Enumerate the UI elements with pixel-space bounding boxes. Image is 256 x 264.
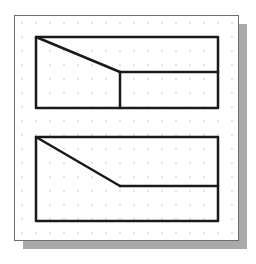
grid-dot (105, 190, 106, 191)
grid-dot (105, 120, 106, 121)
grid-dot (49, 218, 50, 219)
grid-dot (203, 218, 204, 219)
grid-dot (119, 22, 120, 23)
grid-dot (161, 176, 162, 177)
grid-dot (105, 134, 106, 135)
grid-dot (119, 176, 120, 177)
grid-dot (105, 148, 106, 149)
grid-dot (147, 190, 148, 191)
grid-dot (175, 176, 176, 177)
grid-dot (175, 218, 176, 219)
grid-dot (77, 92, 78, 93)
grid-dot (175, 232, 176, 233)
grid-dot (203, 232, 204, 233)
grid-dot (35, 232, 36, 233)
grid-dot (175, 190, 176, 191)
grid-dot (49, 22, 50, 23)
grid-dot (161, 50, 162, 51)
grid-dot (91, 190, 92, 191)
grid-dot (35, 120, 36, 121)
grid-dot (175, 50, 176, 51)
grid-dot (21, 204, 22, 205)
grid-dot (105, 22, 106, 23)
grid-dot (147, 64, 148, 65)
grid-dot (147, 134, 148, 135)
grid-dot (175, 92, 176, 93)
grid-dot (203, 148, 204, 149)
drawing-canvas (0, 0, 256, 264)
grid-dot (147, 204, 148, 205)
grid-dot (203, 134, 204, 135)
grid-dot (77, 190, 78, 191)
grid-dot (189, 218, 190, 219)
dot-grid (21, 22, 232, 233)
grid-dot (91, 22, 92, 23)
grid-dot (175, 22, 176, 23)
grid-dot (63, 92, 64, 93)
grid-dot (119, 162, 120, 163)
grid-dot (49, 50, 50, 51)
grid-dot (203, 176, 204, 177)
grid-dot (91, 64, 92, 65)
grid-dot (77, 78, 78, 79)
grid-dot (49, 190, 50, 191)
grid-dot (133, 78, 134, 79)
grid-dot (63, 78, 64, 79)
grid-dot (77, 218, 78, 219)
grid-dot (91, 176, 92, 177)
grid-dot (231, 190, 232, 191)
grid-dot (147, 120, 148, 121)
grid-dot (231, 162, 232, 163)
grid-dot (203, 22, 204, 23)
grid-dot (77, 64, 78, 65)
grid-dot (91, 134, 92, 135)
grid-dot (231, 176, 232, 177)
grid-dot (63, 232, 64, 233)
grid-dot (231, 36, 232, 37)
grid-dot (231, 106, 232, 107)
grid-dot (189, 120, 190, 121)
top-view-profile (36, 37, 218, 108)
grid-dot (203, 190, 204, 191)
grid-dot (203, 204, 204, 205)
grid-dot (49, 162, 50, 163)
grid-dot (63, 190, 64, 191)
grid-dot (21, 232, 22, 233)
grid-dot (161, 22, 162, 23)
grid-dot (49, 176, 50, 177)
grid-dot (231, 148, 232, 149)
grid-dot (77, 50, 78, 51)
grid-dot (77, 22, 78, 23)
grid-dot (21, 176, 22, 177)
grid-dot (189, 50, 190, 51)
grid-dot (217, 120, 218, 121)
grid-dot (21, 134, 22, 135)
grid-dot (161, 148, 162, 149)
grid-dot (175, 204, 176, 205)
grid-dot (231, 78, 232, 79)
grid-dot (49, 78, 50, 79)
grid-dot (147, 162, 148, 163)
grid-dot (21, 190, 22, 191)
grid-dot (147, 92, 148, 93)
grid-dot (91, 50, 92, 51)
grid-dot (49, 92, 50, 93)
grid-dot (63, 204, 64, 205)
grid-dot (49, 120, 50, 121)
grid-dot (133, 22, 134, 23)
grid-dot (133, 92, 134, 93)
bottom-view-profile (36, 137, 218, 221)
grid-dot (133, 204, 134, 205)
grid-dot (119, 134, 120, 135)
grid-dot (217, 22, 218, 23)
grid-dot (189, 22, 190, 23)
grid-dot (105, 232, 106, 233)
grid-dot (147, 78, 148, 79)
grid-dot (119, 232, 120, 233)
grid-dot (175, 162, 176, 163)
grid-dot (203, 92, 204, 93)
grid-dot (147, 176, 148, 177)
grid-dot (119, 50, 120, 51)
grid-dot (189, 134, 190, 135)
grid-dot (35, 134, 36, 135)
